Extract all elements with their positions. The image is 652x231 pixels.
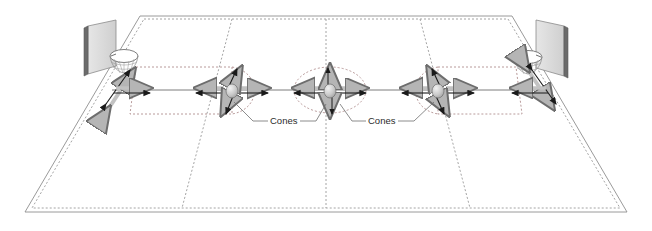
left-backboard-edge xyxy=(84,26,88,76)
left-backboard-face xyxy=(88,20,116,74)
cone-center-marker xyxy=(324,84,336,98)
court-diagram-svg: Cones Cones xyxy=(0,0,652,231)
cones-label-right: Cones xyxy=(368,115,396,126)
right-backboard-face xyxy=(536,20,564,76)
cones-label-left: Cones xyxy=(270,115,298,126)
cone-right-marker xyxy=(432,84,444,98)
right-backboard-edge xyxy=(564,26,568,78)
diagram-canvas: Cones Cones xyxy=(0,0,652,231)
cone-left-marker xyxy=(226,84,238,98)
